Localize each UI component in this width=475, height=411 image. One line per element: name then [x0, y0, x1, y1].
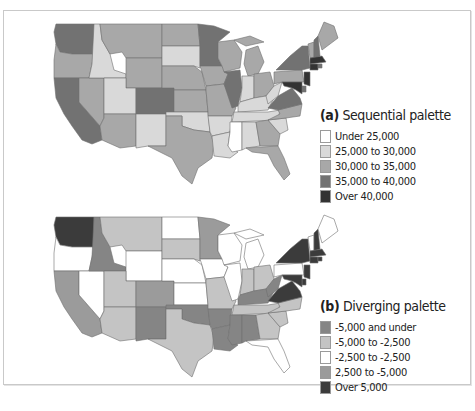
legend-swatch	[320, 130, 331, 143]
legend-swatch	[320, 145, 331, 158]
state-nebraska	[162, 259, 206, 283]
state-maine	[318, 215, 338, 243]
legend-sequential: (a) Sequential palette Under 25,00025,00…	[320, 107, 451, 204]
legend-item: -5,000 to -2,500	[320, 335, 446, 350]
state-new-mexico	[136, 307, 166, 341]
state-wyoming	[126, 251, 162, 281]
state-rhode-island	[318, 257, 322, 261]
legend-label: Under 25,000	[335, 130, 399, 143]
state-mississippi	[228, 122, 242, 152]
state-colorado	[136, 88, 174, 114]
legend-label: -5,000 and under	[335, 321, 416, 334]
legend-swatch	[320, 160, 331, 173]
state-florida	[246, 339, 290, 373]
legend-swatch	[320, 336, 331, 349]
state-kansas	[174, 283, 208, 305]
state-north-dakota	[162, 24, 200, 46]
state-colorado	[136, 281, 174, 307]
legend-title: (a) Sequential palette	[320, 107, 451, 123]
legend-label: Over 40,000	[335, 190, 393, 203]
state-washington	[54, 217, 94, 247]
legend-title: (b) Diverging palette	[320, 298, 446, 314]
legend-diverging: (b) Diverging palette -5,000 and under-5…	[320, 298, 446, 395]
legend-item: 2,500 to -5,000	[320, 365, 446, 380]
state-north-dakota	[162, 217, 200, 239]
legend-item: Over 5,000	[320, 380, 446, 395]
legend-label: 25,000 to 30,000	[335, 145, 416, 158]
legend-label: 35,000 to 40,000	[335, 175, 416, 188]
legend-item: Under 25,000	[320, 129, 451, 144]
legend-swatch	[320, 190, 331, 203]
state-nebraska	[162, 66, 206, 90]
state-new-jersey	[304, 72, 310, 86]
legend-label: 30,000 to 35,000	[335, 160, 416, 173]
state-arizona	[100, 114, 136, 148]
state-indiana	[240, 76, 254, 102]
legend-item: 25,000 to 30,000	[320, 144, 451, 159]
state-montana	[100, 24, 162, 58]
state-washington	[54, 24, 94, 54]
state-new-jersey	[304, 265, 310, 279]
state-indiana	[240, 269, 254, 295]
state-arizona	[100, 307, 136, 341]
legend-item: Over 40,000	[320, 189, 451, 204]
state-connecticut	[310, 257, 318, 263]
legend-item: -2,500 to -2,500	[320, 350, 446, 365]
state-delaware	[302, 86, 306, 92]
state-rhode-island	[318, 64, 322, 68]
state-new-york	[276, 46, 310, 70]
state-mississippi	[228, 315, 242, 345]
legend-swatch	[320, 321, 331, 334]
state-wyoming	[126, 58, 162, 88]
legend-label: -2,500 to -2,500	[335, 351, 410, 364]
state-south-dakota	[162, 239, 200, 261]
state-new-mexico	[136, 114, 166, 148]
state-kansas	[174, 90, 208, 112]
state-florida	[246, 146, 290, 180]
legend-label: -5,000 to -2,500	[335, 336, 410, 349]
state-delaware	[302, 279, 306, 285]
legend-swatch	[320, 381, 331, 394]
state-montana	[100, 217, 162, 251]
legend-label: Over 5,000	[335, 381, 387, 394]
legend-swatch	[320, 351, 331, 364]
legend-swatch	[320, 175, 331, 188]
state-new-york	[276, 239, 310, 263]
legend-item: -5,000 and under	[320, 320, 446, 335]
state-south-dakota	[162, 46, 200, 68]
state-connecticut	[310, 64, 318, 70]
legend-label: 2,500 to -5,000	[335, 366, 407, 379]
state-maine	[318, 22, 338, 50]
legend-swatch	[320, 366, 331, 379]
legend-item: 35,000 to 40,000	[320, 174, 451, 189]
legend-item: 30,000 to 35,000	[320, 159, 451, 174]
